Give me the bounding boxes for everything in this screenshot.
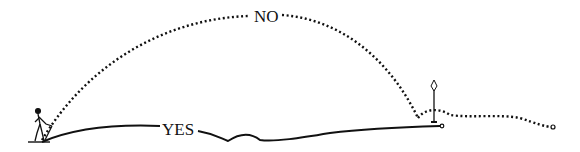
rolloff-end-ball bbox=[551, 125, 555, 129]
rolloff-path bbox=[418, 110, 553, 127]
no-label: NO bbox=[254, 7, 279, 26]
no-path-arc bbox=[42, 15, 418, 140]
golf-shot-diagram: NO YES bbox=[0, 0, 580, 152]
yes-label: YES bbox=[162, 120, 194, 139]
flag-icon bbox=[431, 80, 437, 122]
golfer-icon bbox=[28, 109, 52, 142]
yes-end-ball bbox=[440, 124, 444, 128]
yes-path-ground bbox=[198, 126, 440, 141]
yes-path-line bbox=[42, 126, 160, 142]
